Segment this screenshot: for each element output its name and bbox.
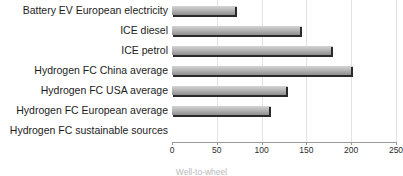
bar-shadow bbox=[173, 55, 333, 57]
x-tick-label: 250 bbox=[389, 145, 403, 155]
bar bbox=[172, 66, 353, 77]
bar-end-cap bbox=[235, 7, 237, 17]
bar-shadow bbox=[173, 75, 353, 77]
bar-end-cap bbox=[286, 87, 288, 97]
category-label: ICE diesel bbox=[120, 25, 168, 36]
category-label: Hydrogen FC China average bbox=[34, 65, 168, 76]
category-label: Hydrogen FC sustainable sources bbox=[10, 125, 168, 136]
bar-fill bbox=[172, 26, 302, 35]
x-tick-label: 150 bbox=[299, 145, 313, 155]
x-axis-line bbox=[172, 142, 397, 143]
bar-fill bbox=[172, 6, 237, 15]
bar-end-cap bbox=[351, 67, 353, 77]
bar bbox=[172, 26, 302, 37]
category-label: Hydrogen FC European average bbox=[16, 105, 168, 116]
bar-fill bbox=[172, 106, 271, 115]
bar-shadow bbox=[173, 35, 302, 37]
bar-shadow bbox=[173, 115, 271, 117]
bar-shadow bbox=[173, 15, 237, 17]
bar bbox=[172, 46, 333, 57]
plot-area bbox=[172, 0, 396, 142]
category-axis-labels: Battery EV European electricityICE diese… bbox=[0, 0, 171, 142]
x-axis-title: Well-to-wheel bbox=[0, 167, 403, 176]
x-tick-label: 0 bbox=[170, 145, 175, 155]
bar-end-cap bbox=[269, 107, 271, 117]
category-label: ICE petrol bbox=[121, 45, 168, 56]
x-tick-label: 100 bbox=[255, 145, 269, 155]
bar-end-cap bbox=[331, 47, 333, 57]
bar bbox=[172, 86, 288, 97]
bar-chart: Battery EV European electricityICE diese… bbox=[0, 0, 403, 176]
x-tick-label: 200 bbox=[344, 145, 358, 155]
bar-fill bbox=[172, 66, 353, 75]
category-label: Hydrogen FC USA average bbox=[41, 85, 168, 96]
bar-fill bbox=[172, 86, 288, 95]
category-label: Battery EV European electricity bbox=[23, 5, 168, 16]
bar-fill bbox=[172, 46, 333, 55]
bar-end-cap bbox=[300, 27, 302, 37]
gridline bbox=[396, 0, 397, 142]
bar bbox=[172, 6, 237, 17]
bar bbox=[172, 106, 271, 117]
bar-shadow bbox=[173, 95, 288, 97]
x-tick-label: 50 bbox=[212, 145, 221, 155]
